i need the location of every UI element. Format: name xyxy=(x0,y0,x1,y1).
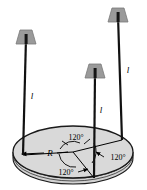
masses-group xyxy=(16,8,128,78)
physics-figure: R 120° 120° 120° xyxy=(0,0,147,190)
mass-middle xyxy=(85,64,105,78)
radius-label: R xyxy=(46,148,53,158)
mass-right-slot xyxy=(117,12,120,22)
mass-middle-slot xyxy=(94,68,97,78)
angle-label-upper-left: 120° xyxy=(68,133,83,142)
length-label-right: l xyxy=(127,65,130,75)
string-right xyxy=(118,16,122,140)
length-label-left: l xyxy=(31,91,34,101)
string-middle xyxy=(94,72,95,178)
angle-label-lower-left: 120° xyxy=(58,168,73,177)
mass-right xyxy=(108,8,128,22)
mass-left xyxy=(16,30,36,44)
mass-left-slot xyxy=(25,34,28,44)
angle-label-right: 120° xyxy=(110,153,125,162)
length-label-middle: l xyxy=(100,105,103,115)
figure-canvas: R 120° 120° 120° xyxy=(0,0,147,190)
